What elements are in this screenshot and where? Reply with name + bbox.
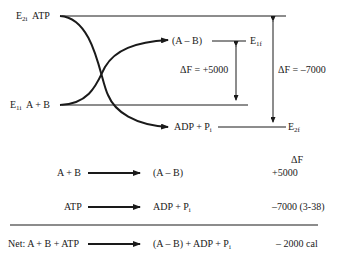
table-header-delta-f: ΔF <box>291 154 303 166</box>
row2-value: –7000 (3-38) <box>272 201 325 213</box>
delta-f-minus-label: ΔF = –7000 <box>278 64 326 76</box>
delta-f-plus-label: ΔF = +5000 <box>180 64 228 76</box>
row2-right: ADP + Pi <box>153 201 191 216</box>
e1f-label: E1f <box>250 35 262 50</box>
net-left: Net: A + B + ATP <box>8 238 79 250</box>
e2i-label: E2i ATP <box>16 10 50 25</box>
complex-label: (A – B) <box>172 35 202 47</box>
row1-value: +5000 <box>272 167 298 179</box>
row1-left: A + B <box>57 167 81 179</box>
e1i-label: E1i A + B <box>10 99 50 114</box>
net-right: (A – B) + ADP + Pi <box>153 238 231 253</box>
adp-label: ADP + Pi <box>174 121 212 136</box>
net-value: – 2000 cal <box>276 238 318 250</box>
atp-to-adp-curve <box>60 16 168 127</box>
row1-right: (A – B) <box>153 167 183 179</box>
ab-to-complex-curve <box>60 40 168 105</box>
row2-left: ATP <box>64 201 82 213</box>
e2f-label: E2f <box>288 121 300 136</box>
